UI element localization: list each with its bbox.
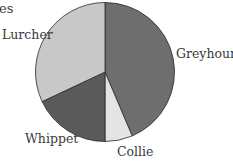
pie-slices (35, 2, 174, 141)
chart-title: es (0, 1, 13, 16)
label-collie: Collie (117, 144, 153, 159)
label-greyhound: Greyhound (176, 46, 233, 61)
label-lurcher: Lurcher (2, 27, 53, 42)
pie-chart: es Greyhound Collie Whippet Lurcher (0, 0, 233, 166)
label-whippet: Whippet (25, 131, 78, 146)
